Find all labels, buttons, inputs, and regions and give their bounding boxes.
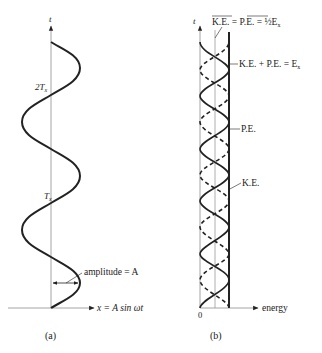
x-axis-label-a: x = A sin ωt — [96, 303, 143, 313]
panel-b: t energy 0 K.E. = P.E. = ½Ex K.E. + P.E — [193, 16, 300, 342]
total-energy-label: K.E. + P.E. = Ex — [239, 59, 300, 70]
kinetic-energy-curve — [200, 42, 229, 308]
energy-axis-label: energy — [262, 303, 288, 313]
average-energy-label: K.E. = P.E. = ½Ex — [212, 16, 280, 38]
svg-text:K.E. = P.E.: K.E. = P.E. = ½Ex — [212, 17, 280, 28]
tick-2T: 2Tx — [35, 82, 48, 93]
t-axis-label-a: t — [49, 14, 52, 24]
origin-label: 0 — [198, 310, 202, 320]
potential-energy-curve — [200, 42, 229, 308]
amplitude-label: amplitude = A — [84, 267, 139, 277]
caption-a: (a) — [45, 330, 56, 342]
pe-label: P.E. — [241, 124, 256, 134]
caption-b: (b) — [210, 330, 222, 342]
t-axis-label-b: t — [193, 16, 196, 26]
figure-canvas: t x = A sin ωt 2Tx Tx amplitude = A (a) … — [0, 0, 322, 353]
panel-a: t x = A sin ωt 2Tx Tx amplitude = A (a) — [8, 14, 143, 342]
ke-label: K.E. — [242, 178, 259, 188]
